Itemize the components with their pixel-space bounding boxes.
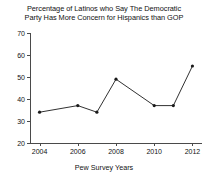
y-tick-label: 70 bbox=[17, 30, 25, 37]
x-tick-label: 2004 bbox=[32, 148, 48, 155]
x-tick-mark bbox=[40, 143, 41, 146]
data-series-line bbox=[30, 33, 202, 143]
data-point-marker bbox=[172, 104, 175, 107]
plot-area: 203040506070 20042006200820102012 bbox=[30, 33, 202, 143]
y-tick-label: 50 bbox=[17, 74, 25, 81]
x-tick-mark bbox=[78, 143, 79, 146]
data-point-marker bbox=[95, 111, 98, 114]
x-tick-label: 2006 bbox=[70, 148, 86, 155]
y-tick-label: 60 bbox=[17, 52, 25, 59]
data-point-marker bbox=[38, 111, 41, 114]
data-point-marker bbox=[114, 78, 117, 81]
y-tick-mark bbox=[27, 143, 30, 144]
data-point-marker bbox=[76, 104, 79, 107]
chart-container: Percentage of Latinos who Say The Democr… bbox=[0, 0, 208, 181]
y-tick-label: 30 bbox=[17, 118, 25, 125]
y-tick-label: 40 bbox=[17, 96, 25, 103]
chart-title-line-1: Percentage of Latinos who Say The Democr… bbox=[0, 4, 208, 13]
x-tick-label: 2012 bbox=[185, 148, 201, 155]
x-tick-mark bbox=[154, 143, 155, 146]
x-tick-label: 2010 bbox=[146, 148, 162, 155]
x-tick-label: 2008 bbox=[108, 148, 124, 155]
data-point-marker bbox=[191, 64, 194, 67]
x-axis-title: Pew Survey Years bbox=[0, 163, 208, 172]
chart-title-line-2: Party Has More Concern for Hispanics tha… bbox=[0, 13, 208, 22]
data-point-marker bbox=[153, 104, 156, 107]
series-polyline bbox=[40, 66, 193, 112]
x-tick-mark bbox=[192, 143, 193, 146]
chart-title: Percentage of Latinos who Say The Democr… bbox=[0, 4, 208, 23]
y-tick-label: 20 bbox=[17, 140, 25, 147]
x-tick-mark bbox=[116, 143, 117, 146]
